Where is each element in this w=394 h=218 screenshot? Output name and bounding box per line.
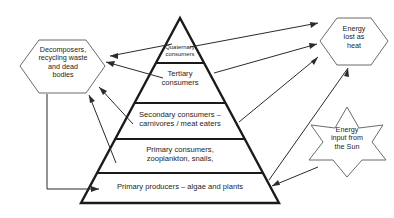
arrow-sun-to-primary-producers	[272, 167, 318, 186]
diagram-canvas	[0, 0, 394, 218]
arrow-primary-consumers-to-decomposers	[89, 95, 116, 163]
decomposers-node-shape	[20, 40, 105, 93]
energy-input-node-shape	[309, 107, 386, 177]
pyramid-outline	[81, 18, 279, 203]
ecological-pyramid-diagram: Quaternary consumers Tertiary consumers …	[0, 0, 394, 218]
arrow-quaternary-to-energy-lost	[190, 22, 318, 47]
energy-lost-node-shape	[320, 18, 388, 65]
arrow-secondary-to-decomposers	[99, 87, 133, 124]
arrow-tertiary-to-energy-lost	[214, 43, 317, 73]
arrow-secondary-to-energy-lost	[239, 57, 318, 122]
arrow-decomposers-to-primary-producers	[47, 94, 99, 192]
